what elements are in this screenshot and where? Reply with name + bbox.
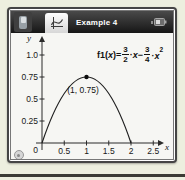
- calculator-screen: Example 4 f1(x)= 3 2 ·x−: [7, 7, 177, 163]
- page: { "titlebar": { "title": "Example 4", "i…: [0, 0, 185, 180]
- x-tick-label: 2: [122, 146, 140, 156]
- x-axis-letter: x: [165, 142, 169, 152]
- equation-term-2: ·x2: [151, 49, 163, 61]
- handheld-button[interactable]: [14, 12, 32, 32]
- handheld-icon: [19, 16, 27, 29]
- battery-indicator: [150, 17, 167, 27]
- document-title: Example 4: [76, 18, 117, 27]
- tab-graphs[interactable]: [45, 13, 68, 33]
- x-tick-label: 1: [78, 146, 96, 156]
- y-tick-label: 0.5: [14, 94, 38, 104]
- graphs-app-icon: [50, 16, 64, 30]
- screen-content: Example 4 f1(x)= 3 2 ·x−: [10, 10, 174, 160]
- graph-view[interactable]: f1(x)= 3 2 ·x− 3 4 ·x2 (1, 0.75) 0 x y 0…: [11, 33, 173, 159]
- origin-label: 0: [26, 145, 38, 155]
- fraction-3-2: 3 2: [122, 46, 128, 63]
- y-tick-label: 0.25: [14, 116, 38, 126]
- vertex-point-label[interactable]: (1, 0.75): [57, 85, 109, 95]
- function-expression[interactable]: f1(x)= 3 2 ·x− 3 4 ·x2: [97, 46, 163, 63]
- page-rule: [0, 174, 185, 177]
- x-tick-label: 0.5: [55, 146, 73, 156]
- y-axis-arrow: [39, 36, 45, 42]
- function-name: f1(x)=: [97, 50, 121, 60]
- x-tick-label: 2.5: [144, 146, 162, 156]
- battery-icon: [150, 17, 167, 27]
- equation-term-1: ·x−: [130, 50, 143, 60]
- title-bar: Example 4: [11, 11, 173, 33]
- vertex-point[interactable]: [84, 75, 88, 79]
- cursor-circle-icon: [14, 150, 24, 159]
- y-axis-letter: y: [27, 33, 31, 43]
- fraction-3-4: 3 4: [144, 46, 150, 63]
- x-tick-label: 1.5: [100, 146, 118, 156]
- y-tick-label: 1.0: [14, 50, 38, 60]
- y-tick-label: 0.75: [14, 72, 38, 82]
